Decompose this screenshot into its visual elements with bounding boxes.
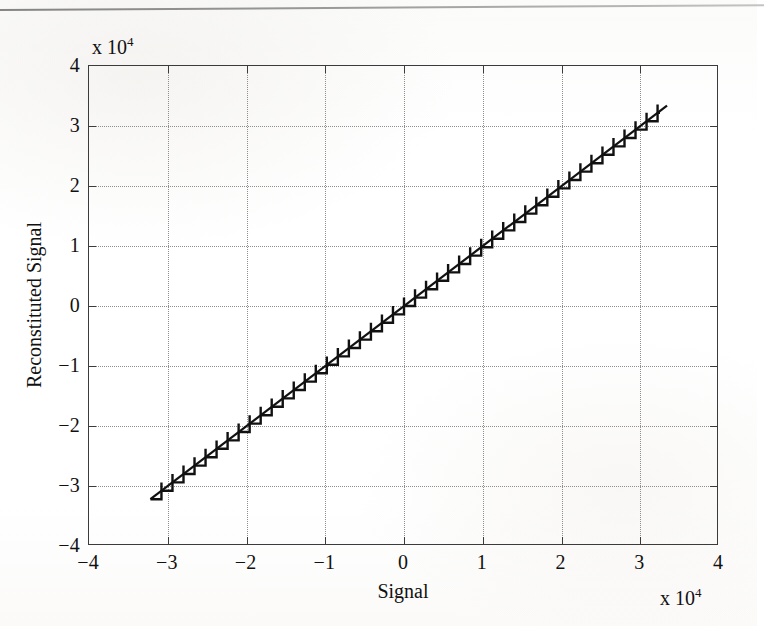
y-tick-label: 2 [70,174,80,197]
x-tick-label: 3 [634,551,644,574]
y-tick-label: −1 [58,354,80,377]
y-tick-label: −4 [58,534,80,557]
y-tick-label: 0 [70,294,80,317]
y-axis-exponent-label: x 104 [92,34,134,59]
x-tick-label: −1 [313,551,335,574]
y-exponent-prefix: x 10 [92,36,127,58]
x-exponent-prefix: x 10 [660,587,695,609]
ideal-line [150,106,667,500]
x-axis-exponent-label: x 104 [660,585,702,610]
x-tick-label: 2 [555,551,565,574]
y-axis-title: Reconstituted Signal [23,222,46,388]
x-tick-label: −2 [235,551,257,574]
y-tick-label: 4 [70,54,80,77]
y-tick-label: 3 [70,114,80,137]
x-tick-label: 4 [713,551,723,574]
x-tick-label: 1 [477,551,487,574]
series-ideal-line [150,106,667,500]
x-axis-title: Signal [377,580,428,603]
x-tick-label: −4 [77,551,99,574]
x-tick-label: −3 [156,551,178,574]
y-tick-label: −2 [58,414,80,437]
x-exponent-power: 4 [695,585,702,600]
plot-area [88,65,718,545]
y-tick-label: −3 [58,474,80,497]
data-plot-svg [89,66,719,546]
y-exponent-power: 4 [127,34,134,49]
y-tick-label: 1 [70,234,80,257]
x-tick-label: 0 [398,551,408,574]
